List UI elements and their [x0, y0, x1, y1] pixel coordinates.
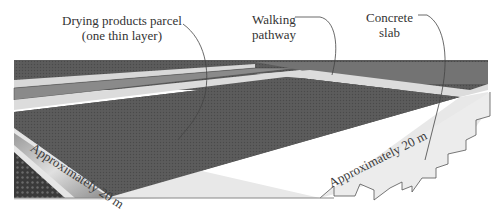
slab-label-line2: slab [366, 25, 413, 40]
pathway-label-line2: pathway [252, 27, 296, 42]
parcel-label-line1: Drying products parcel [62, 13, 182, 28]
pathway-label: Walking pathway [252, 12, 296, 42]
slab-label-line1: Concrete [366, 10, 413, 25]
parcel-label-line2: (one thin layer) [62, 28, 182, 43]
slab-label: Concrete slab [366, 10, 413, 40]
parcel-label: Drying products parcel (one thin layer) [62, 13, 182, 43]
pathway-label-line1: Walking [252, 12, 296, 27]
